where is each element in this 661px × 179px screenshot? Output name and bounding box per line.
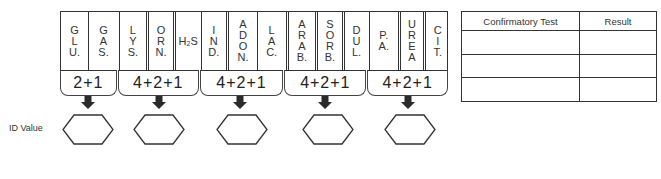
table-row: [462, 31, 657, 55]
test-group-1: GLU. GAS.: [61, 12, 118, 70]
test-cell-arab: ARAB.: [289, 12, 315, 70]
test-cell-sorb: SORB.: [315, 12, 342, 70]
id-value-label: ID Value: [9, 123, 43, 133]
test-cell-lys: LYS.: [120, 12, 146, 70]
down-arrow-icon: [318, 96, 332, 109]
test-cell-urea: UREA: [398, 12, 424, 70]
down-arrow-icon: [401, 96, 415, 109]
down-arrow-icon: [81, 96, 95, 109]
header-result: Result: [580, 12, 657, 31]
score-row: 2+1 4+2+1 4+2+1 4+2+1 4+2+1: [60, 70, 448, 96]
down-arrow-icon: [233, 96, 247, 109]
test-group-5: P.A. UREA CIT.: [369, 12, 449, 70]
test-cell-h2s: H₂S: [173, 12, 200, 70]
test-cell-lac: LAC.: [257, 12, 285, 70]
confirmatory-test-table: Confirmatory Test Result: [461, 11, 657, 102]
table-header-row: Confirmatory Test Result: [462, 12, 657, 31]
test-group-3: IND. ADON. LAC.: [201, 12, 285, 70]
score-group-2: 4+2+1: [118, 70, 199, 96]
id-value-box-1[interactable]: [62, 114, 114, 145]
header-confirmatory-test: Confirmatory Test: [462, 12, 580, 31]
test-cell-ind: IND.: [202, 12, 226, 70]
test-cell-adon: ADON.: [226, 12, 258, 70]
id-value-box-3[interactable]: [216, 114, 268, 145]
score-group-3: 4+2+1: [200, 70, 284, 96]
test-cell-gas: GAS.: [88, 12, 118, 70]
test-cell-dul: DUL.: [342, 12, 368, 70]
score-group-1: 2+1: [60, 70, 117, 96]
biochemical-test-panel: GLU. GAS. LYS. ORN. H₂S IND. ADON. LAC. …: [60, 11, 448, 70]
table-row: [462, 54, 657, 78]
test-cell-glu: GLU.: [61, 12, 88, 70]
id-value-box-5[interactable]: [384, 114, 436, 145]
result-cell[interactable]: [580, 54, 657, 78]
down-arrow-icon: [152, 96, 166, 109]
test-cell-orn: ORN.: [146, 12, 174, 70]
confirmatory-test-cell[interactable]: [462, 78, 580, 102]
result-cell[interactable]: [580, 78, 657, 102]
test-cell-cit: CIT.: [423, 12, 449, 70]
test-cell-pa: P.A.: [370, 12, 398, 70]
score-group-5: 4+2+1: [367, 70, 448, 96]
table-row: [462, 78, 657, 102]
confirmatory-test-cell[interactable]: [462, 31, 580, 55]
score-group-4: 4+2+1: [284, 70, 366, 96]
id-value-box-4[interactable]: [302, 114, 354, 145]
confirmatory-test-cell[interactable]: [462, 54, 580, 78]
result-cell[interactable]: [580, 31, 657, 55]
test-group-2: LYS. ORN. H₂S: [119, 12, 200, 70]
id-value-box-2[interactable]: [133, 114, 185, 145]
test-group-4: ARAB. SORB. DUL.: [286, 12, 368, 70]
